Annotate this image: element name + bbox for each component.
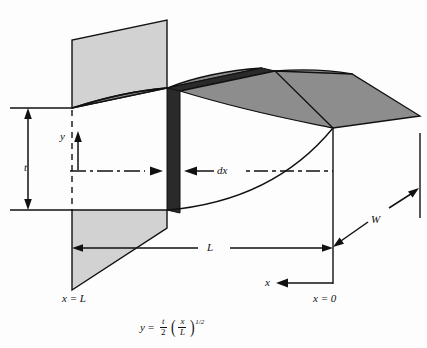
equation-equals: = — [148, 322, 154, 333]
equation-lhs: y — [140, 322, 145, 333]
equation-coefficient-numerator: t — [160, 317, 167, 328]
label-L: L — [207, 242, 213, 253]
equation-paren-close: ) — [190, 319, 195, 335]
equation-ratio-numerator: x — [178, 317, 186, 328]
equation-paren-open: ( — [170, 319, 175, 335]
label-dx: dx — [217, 165, 227, 176]
label-station-root: x = L — [62, 293, 86, 304]
equation-ratio-denominator: L — [178, 328, 187, 338]
profile-equation: y = t 2 ( x L ) 1/2 — [140, 317, 204, 337]
figure-canvas: t y dx L W x x = L x = 0 y = t 2 ( x L )… — [0, 0, 427, 348]
equation-ratio: x L — [178, 317, 187, 337]
label-y: y — [60, 131, 65, 142]
dx-callout-arrow — [184, 166, 214, 175]
label-x-axis: x — [265, 277, 270, 288]
label-W: W — [371, 214, 380, 225]
x-axis-arrow — [276, 278, 333, 287]
element-front-face — [167, 88, 180, 213]
label-t: t — [24, 162, 27, 173]
equation-coefficient-denominator: 2 — [159, 328, 168, 338]
t-dimension-arrow — [24, 108, 32, 210]
neutral-axis-left — [70, 166, 163, 175]
root-plate-lower — [72, 210, 167, 290]
equation-exponent: 1/2 — [195, 319, 204, 326]
equation-coefficient: t 2 — [159, 317, 168, 337]
y-dimension-arrow — [74, 131, 82, 170]
label-station-tip: x = 0 — [313, 293, 336, 304]
